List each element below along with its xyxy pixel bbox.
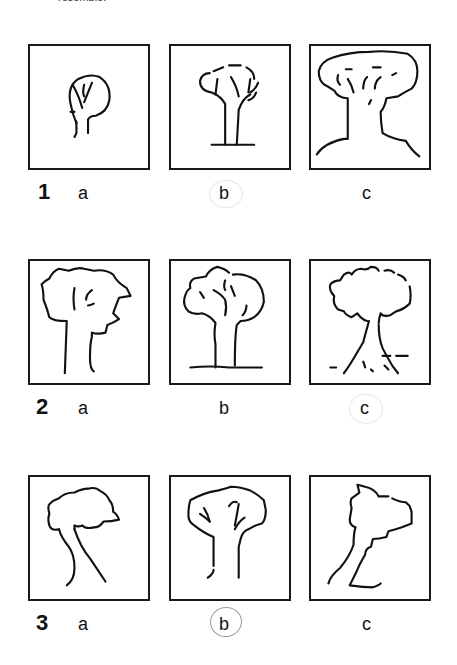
option-label-2a[interactable]: a xyxy=(78,398,88,418)
tree-large-crown-wide-trunk-icon xyxy=(311,46,429,168)
tree-option-3a[interactable] xyxy=(28,475,150,601)
option-label-3a[interactable]: a xyxy=(78,614,88,634)
option-label-2c[interactable]: c xyxy=(360,398,369,418)
tree-leaning-trunk-icon xyxy=(30,477,148,599)
tree-with-roots-icon xyxy=(311,261,429,383)
option-label-2b[interactable]: b xyxy=(219,398,229,418)
option-label-1a[interactable]: a xyxy=(78,183,88,203)
option-label-3b[interactable]: b xyxy=(219,614,229,634)
tree-option-3c[interactable] xyxy=(309,475,431,601)
tree-option-1b[interactable] xyxy=(169,44,291,170)
option-label-1b[interactable]: b xyxy=(219,183,229,203)
tree-option-1a[interactable] xyxy=(28,44,150,170)
tree-angular-crown-icon xyxy=(311,477,429,599)
option-label-1c[interactable]: c xyxy=(362,183,371,203)
tree-option-2a[interactable] xyxy=(28,259,150,385)
tree-flat-crown-straight-trunk-icon xyxy=(171,477,289,599)
question-number-2: 2 xyxy=(36,396,48,418)
option-label-3c[interactable]: c xyxy=(362,614,371,634)
tree-option-2c[interactable] xyxy=(309,259,431,385)
tree-jagged-crown-icon xyxy=(30,261,148,383)
question-number-3: 3 xyxy=(36,612,48,634)
tree-bushy-with-ground-line-icon xyxy=(171,46,289,168)
tree-option-3b[interactable] xyxy=(169,475,291,601)
question-number-1: 1 xyxy=(38,181,50,203)
clipped-header-text: resemble. xyxy=(58,0,106,3)
tree-cloud-crown-with-ground-icon xyxy=(171,261,289,383)
tree-option-1c[interactable] xyxy=(309,44,431,170)
tree-small-round-crown-icon xyxy=(30,46,148,168)
tree-option-2b[interactable] xyxy=(169,259,291,385)
